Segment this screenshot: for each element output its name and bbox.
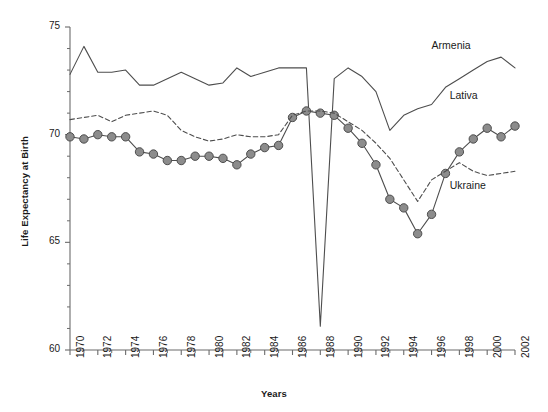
data-point-marker	[121, 133, 129, 141]
data-point-marker	[344, 124, 352, 132]
x-axis-tick-label: 1990	[353, 336, 364, 358]
data-point-marker	[163, 156, 171, 164]
x-axis-tick-label: 1988	[325, 336, 336, 358]
x-axis-tick-label: 1996	[436, 336, 447, 358]
x-axis-tick-label: 1994	[408, 336, 419, 358]
y-axis-tick-label: 60	[32, 343, 60, 354]
data-point-marker	[483, 124, 491, 132]
x-axis-tick-label: 1984	[269, 336, 280, 358]
y-axis-tick-label: 75	[32, 20, 60, 31]
series-line-armenia	[70, 46, 515, 326]
series-label-lativa: Lativa	[450, 89, 478, 101]
data-point-marker	[191, 152, 199, 160]
data-point-marker	[177, 156, 185, 164]
data-point-marker	[80, 135, 88, 143]
x-axis-tick-label: 2002	[520, 336, 531, 358]
data-point-marker	[427, 210, 435, 218]
x-axis-tick-label: 1980	[214, 336, 225, 358]
data-point-marker	[511, 122, 519, 130]
y-axis-tick-label: 70	[32, 128, 60, 139]
x-axis-title: Years	[214, 388, 334, 399]
data-point-marker	[94, 130, 102, 138]
data-point-marker	[135, 148, 143, 156]
data-point-marker	[108, 133, 116, 141]
data-point-marker	[247, 150, 255, 158]
y-axis-tick-label: 65	[32, 235, 60, 246]
series-label-armenia: Armenia	[432, 39, 471, 51]
data-point-marker	[205, 152, 213, 160]
x-axis-tick-label: 1972	[102, 336, 113, 358]
data-point-marker	[400, 204, 408, 212]
series-markers-lativa	[66, 107, 519, 238]
data-point-marker	[413, 230, 421, 238]
data-point-marker	[66, 133, 74, 141]
chart-figure: Life Expectancy at Birth Years 60657075 …	[0, 0, 548, 412]
data-point-marker	[386, 195, 394, 203]
data-point-marker	[260, 143, 268, 151]
series-label-ukraine: Ukraine	[450, 179, 486, 191]
data-point-marker	[455, 148, 463, 156]
y-axis-title: Life Expectancy at Birth	[19, 112, 30, 272]
data-point-marker	[358, 139, 366, 147]
x-axis-tick-label: 1970	[75, 336, 86, 358]
series-line-ukraine	[70, 111, 515, 201]
x-axis-tick-label: 1982	[241, 336, 252, 358]
x-axis-tick-label: 1992	[380, 336, 391, 358]
data-point-marker	[497, 133, 505, 141]
x-axis-tick-label: 1986	[297, 336, 308, 358]
x-axis-tick-label: 2000	[492, 336, 503, 358]
data-point-marker	[219, 154, 227, 162]
data-point-marker	[316, 109, 324, 117]
x-axis-tick-label: 1974	[130, 336, 141, 358]
data-point-marker	[233, 161, 241, 169]
x-axis-tick-label: 1978	[186, 336, 197, 358]
data-point-marker	[149, 150, 157, 158]
x-axis-tick-label: 1998	[464, 336, 475, 358]
data-point-marker	[274, 141, 282, 149]
data-point-marker	[372, 161, 380, 169]
x-axis-tick-label: 1976	[158, 336, 169, 358]
data-point-marker	[441, 169, 449, 177]
data-point-marker	[469, 135, 477, 143]
